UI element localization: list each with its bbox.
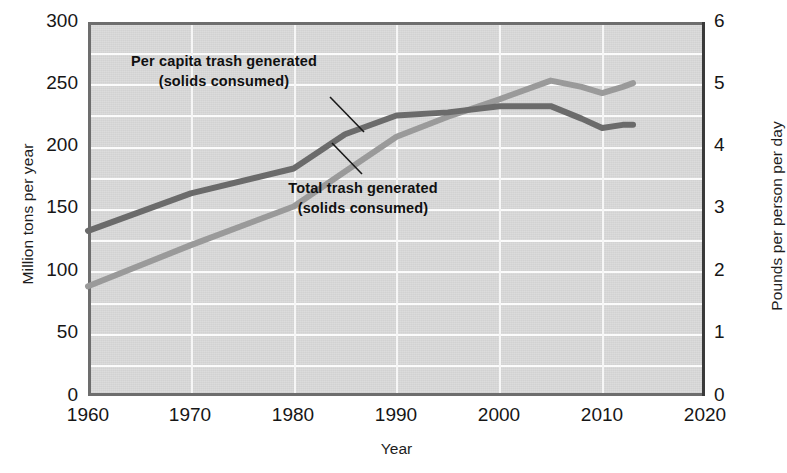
- x-axis-tick-1970: 1970: [154, 404, 226, 426]
- y-axis-left-tick-100: 100: [22, 259, 78, 281]
- y-axis-right-tick-5: 5: [714, 72, 754, 94]
- plot-frame-right: [702, 22, 705, 396]
- x-axis-tick-2020: 2020: [669, 404, 741, 426]
- x-axis-title: Year: [88, 440, 705, 458]
- x-axis-tick-1960: 1960: [52, 404, 124, 426]
- annotation-per-capita: Per capita trash generated (solids consu…: [104, 52, 344, 91]
- plot-frame-top: [88, 22, 705, 25]
- y-axis-right-tick-3: 3: [714, 196, 754, 218]
- chart-figure: Million tons per year Pounds per person …: [0, 0, 787, 473]
- y-axis-right-tick-2: 2: [714, 259, 754, 281]
- plot-frame-left: [88, 22, 91, 396]
- y-axis-left-tick-0: 0: [22, 384, 78, 406]
- y-axis-right-tick-4: 4: [714, 134, 754, 156]
- y-axis-left-tick-200: 200: [22, 134, 78, 156]
- y-axis-left-tick-150: 150: [22, 196, 78, 218]
- y-axis-left-tick-300: 300: [22, 10, 78, 32]
- y-axis-left-tick-50: 50: [22, 321, 78, 343]
- y-axis-right-title: Pounds per person per day: [768, 91, 786, 341]
- annotation-total-line2: (solids consumed): [243, 199, 483, 219]
- annotation-total-line1: Total trash generated: [243, 179, 483, 199]
- gridline-v-2010: [602, 22, 604, 396]
- x-axis-tick-1990: 1990: [360, 404, 432, 426]
- y-axis-right-tick-1: 1: [714, 321, 754, 343]
- y-axis-right-tick-6: 6: [714, 10, 754, 32]
- y-axis-right-tick-0: 0: [714, 384, 754, 406]
- x-axis-tick-2000: 2000: [463, 404, 535, 426]
- x-axis-tick-1980: 1980: [257, 404, 329, 426]
- annotation-per-capita-line1: Per capita trash generated: [104, 52, 344, 72]
- y-axis-left-tick-250: 250: [22, 72, 78, 94]
- annotation-total-trash: Total trash generated (solids consumed): [243, 179, 483, 218]
- gridline-v-2000: [499, 22, 501, 396]
- x-axis-tick-2010: 2010: [566, 404, 638, 426]
- annotation-per-capita-line2: (solids consumed): [104, 72, 344, 92]
- plot-frame-bottom: [88, 393, 705, 396]
